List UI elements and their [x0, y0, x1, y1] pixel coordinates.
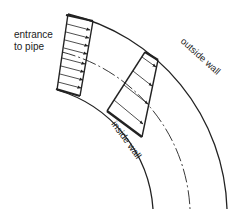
- pipe-bend-diagram: entrance to pipe outside wall inside wal…: [0, 0, 242, 215]
- entrance-label-line1: entrance: [14, 29, 53, 40]
- entrance-label-line2: to pipe: [14, 41, 44, 52]
- entrance-profile: [56, 14, 93, 96]
- outside-wall-label: outside wall: [179, 35, 223, 76]
